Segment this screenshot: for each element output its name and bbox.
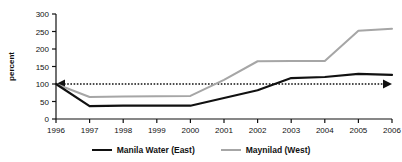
plot-area: 050100150200250300 199619971998199920002… bbox=[0, 0, 402, 162]
y-tick-label: 100 bbox=[36, 80, 50, 89]
series-line-maynilad bbox=[56, 29, 392, 97]
x-tick-label: 1996 bbox=[47, 126, 65, 135]
y-tick-label: 50 bbox=[40, 98, 49, 107]
y-tick-label: 0 bbox=[45, 115, 50, 124]
chart-legend: Manila Water (East) Maynilad (West) bbox=[0, 141, 402, 159]
x-tick-group: 1996199719981999200020012002200320042005… bbox=[47, 119, 401, 135]
y-tick-label: 200 bbox=[36, 45, 50, 54]
x-tick-label: 1998 bbox=[114, 126, 132, 135]
x-tick-label: 2002 bbox=[249, 126, 267, 135]
y-tick-label: 150 bbox=[36, 63, 50, 72]
y-tick-group: 050100150200250300 bbox=[36, 10, 56, 124]
legend-item-maynilad[interactable]: Maynilad (West) bbox=[221, 145, 311, 155]
x-tick-label: 2004 bbox=[316, 126, 334, 135]
x-tick-label: 1999 bbox=[148, 126, 166, 135]
x-tick-label: 2000 bbox=[182, 126, 200, 135]
legend-swatch-manila-water bbox=[92, 149, 112, 151]
y-tick-label: 300 bbox=[36, 10, 50, 19]
legend-swatch-maynilad bbox=[221, 149, 241, 151]
x-tick-label: 2003 bbox=[282, 126, 300, 135]
x-axis: 1996199719981999200020012002200320042005… bbox=[47, 119, 401, 135]
x-tick-label: 1997 bbox=[81, 126, 99, 135]
baseline-right-arrowhead bbox=[383, 80, 392, 89]
x-tick-label: 2006 bbox=[383, 126, 401, 135]
y-axis: 050100150200250300 bbox=[36, 10, 56, 124]
x-tick-label: 2001 bbox=[215, 126, 233, 135]
legend-label-maynilad: Maynilad (West) bbox=[246, 145, 311, 155]
legend-item-manila-water[interactable]: Manila Water (East) bbox=[92, 145, 195, 155]
legend-label-manila-water: Manila Water (East) bbox=[117, 145, 195, 155]
series-group bbox=[56, 29, 392, 106]
y-tick-label: 250 bbox=[36, 28, 50, 37]
x-tick-label: 2005 bbox=[350, 126, 368, 135]
chart-container: percent 050100150200250300 1996199719981… bbox=[0, 0, 402, 162]
